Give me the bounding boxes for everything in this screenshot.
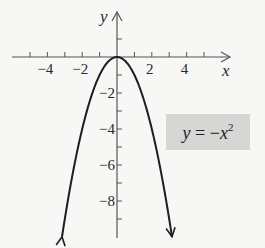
x-tick-label: −4 (37, 61, 53, 77)
equation-equals: = (191, 123, 210, 143)
y-tick-label: −2 (99, 85, 115, 101)
x-tick-label: −2 (72, 61, 88, 77)
y-tick-label: −4 (99, 121, 115, 137)
x-tick-label: 4 (181, 61, 189, 77)
equation-lhs: y (183, 123, 191, 143)
x-axis-label: x (221, 61, 230, 80)
equation-var: x (220, 123, 228, 143)
equation-label: y = −x2 (183, 121, 234, 144)
x-tick-label: 2 (146, 61, 154, 77)
y-tick-label: −6 (99, 157, 115, 173)
parabola-graph: −4−224−2−4−6−8 x y y = −x2 (0, 0, 265, 248)
y-axis-label: y (98, 7, 108, 26)
equation-label-box: y = −x2 (166, 114, 250, 150)
y-tick-label: −8 (99, 193, 115, 209)
equation-exponent: 2 (228, 121, 234, 133)
equation-minus: − (210, 123, 220, 143)
